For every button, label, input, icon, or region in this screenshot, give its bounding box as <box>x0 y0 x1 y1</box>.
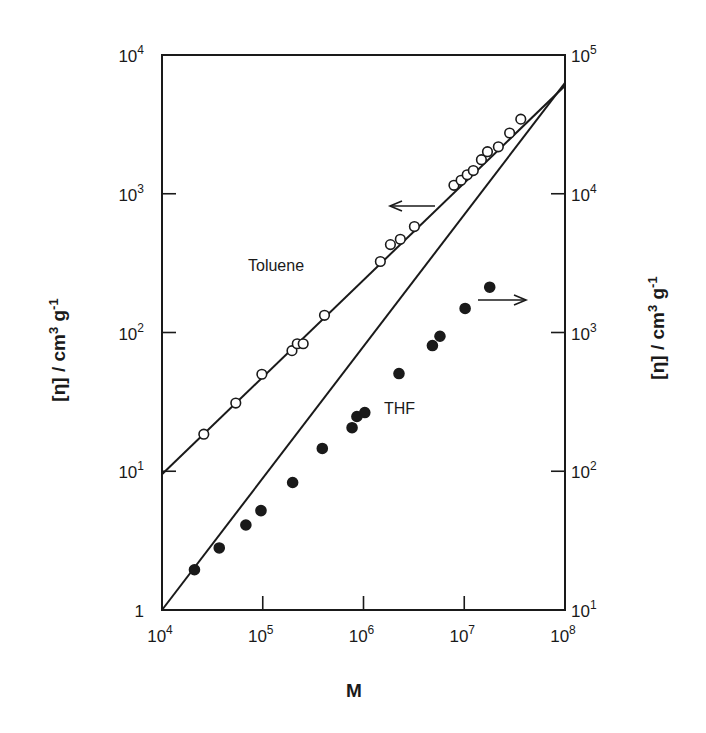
left-y-tick-label: 104 <box>118 43 144 66</box>
toluene-point <box>494 142 504 152</box>
x-tick-label: 106 <box>349 623 375 646</box>
left-y-tick-label: 103 <box>118 182 144 205</box>
left-y-tick-label: 102 <box>118 321 144 344</box>
right-y-tick-label: 103 <box>571 321 597 344</box>
axis-arrows <box>390 201 526 305</box>
right-y-axis-ticks: 101102103104105 <box>551 43 597 621</box>
y-title-sup2: -1 <box>46 298 61 310</box>
x-tick-label: 105 <box>248 623 274 646</box>
toluene-point <box>505 128 515 138</box>
toluene-point <box>396 234 406 244</box>
right-y-tick-label: 105 <box>571 43 597 66</box>
toluene-point <box>483 147 493 157</box>
y-title-sup2-right: -1 <box>645 276 660 288</box>
thf-point <box>427 341 437 351</box>
toluene-point <box>469 166 479 176</box>
plot-border <box>162 55 565 610</box>
thf-label: THF <box>384 400 415 417</box>
x-tick-label: 108 <box>550 623 576 646</box>
thf-point <box>288 477 298 487</box>
y-title-sup1-right: 3 <box>645 305 660 312</box>
y-title-mid-right: g <box>647 288 668 305</box>
right-y-tick-label: 104 <box>571 182 597 205</box>
right-y-axis-title: [η] / cm3 g-1 <box>645 276 668 379</box>
toluene-point <box>320 311 330 321</box>
y-title-mid: g <box>48 310 69 327</box>
thf-point <box>189 565 199 575</box>
right-y-tick-label: 101 <box>571 598 597 621</box>
toluene-point <box>199 429 209 439</box>
y-title-sup1: 3 <box>46 327 61 334</box>
chart: 104105106107108 1101102103104 1011021031… <box>0 0 706 733</box>
right-y-tick-label: 102 <box>571 459 597 482</box>
x-tick-label: 104 <box>147 623 173 646</box>
toluene-point <box>410 222 420 232</box>
x-axis-title: M <box>346 680 362 701</box>
toluene-point <box>516 114 526 124</box>
toluene-point <box>231 398 241 408</box>
x-tick-label: 107 <box>449 623 475 646</box>
thf-point <box>241 520 251 530</box>
left-y-tick-label: 1 <box>135 602 144 621</box>
toluene-point <box>376 257 386 267</box>
left-y-axis-ticks: 1101102103104 <box>118 43 176 621</box>
y-title-main: [η] / cm <box>48 334 69 402</box>
thf-point <box>460 303 470 313</box>
fit-lines <box>162 83 565 610</box>
thf-point <box>485 282 495 292</box>
thf-point <box>360 408 370 418</box>
toluene-point <box>386 240 396 250</box>
data-points <box>189 114 525 574</box>
toluene-point <box>298 339 308 349</box>
thf-point <box>394 369 404 379</box>
svg-text:[η] / cm3 g-1: [η] / cm3 g-1 <box>645 276 668 379</box>
toluene-point <box>257 369 267 379</box>
x-axis-ticks: 104105106107108 <box>147 596 576 646</box>
thf-point <box>317 443 327 453</box>
plot-frame <box>162 55 565 610</box>
thf-point <box>256 506 266 516</box>
y-title-main-right: [η] / cm <box>647 312 668 380</box>
left-y-axis-title: [η] / cm3 g-1 <box>46 298 69 401</box>
fit-line-thf <box>162 83 565 610</box>
svg-text:[η] / cm3 g-1: [η] / cm3 g-1 <box>46 298 69 401</box>
thf-point <box>347 423 357 433</box>
left-y-tick-label: 101 <box>118 459 144 482</box>
toluene-label: Toluene <box>248 257 304 274</box>
thf-point <box>214 543 224 553</box>
thf-point <box>435 331 445 341</box>
